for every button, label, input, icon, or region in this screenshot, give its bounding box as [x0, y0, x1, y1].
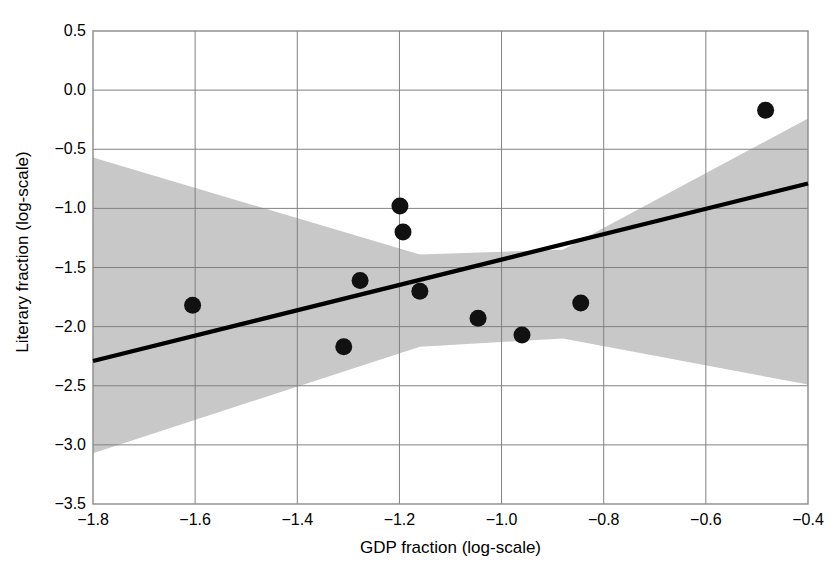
x-axis-tick-labels: −1.8−1.6−1.4−1.2−1.0−0.8−0.6−0.4 [0, 0, 837, 574]
x-tick-label: −0.6 [690, 511, 722, 529]
chart-figure: 0.50.0−0.5−1.0−1.5−2.0−2.5−3.0−3.5 −1.8−… [0, 0, 837, 574]
x-tick-label: −1.2 [384, 511, 416, 529]
x-tick-label: −1.6 [179, 511, 211, 529]
x-tick-label: −1.0 [486, 511, 518, 529]
x-tick-label: −1.4 [281, 511, 313, 529]
x-tick-label: −1.8 [77, 511, 109, 529]
x-tick-label: −0.8 [588, 511, 620, 529]
x-axis-label: GDP fraction (log-scale) [93, 538, 808, 558]
x-tick-label: −0.4 [792, 511, 824, 529]
